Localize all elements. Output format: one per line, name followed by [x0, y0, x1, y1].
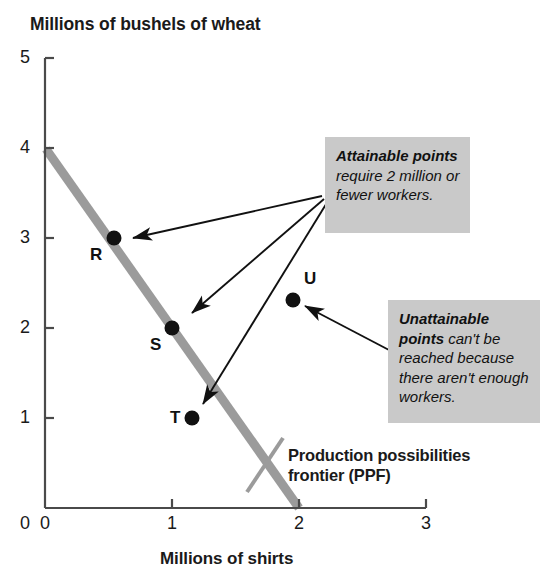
y-tick-label-3: 3 — [8, 227, 30, 248]
x-tick-label-1: 1 — [160, 513, 184, 534]
arrow-to-point-R — [133, 196, 322, 238]
data-point-label-T: T — [170, 408, 180, 428]
y-tick-label-1: 1 — [8, 407, 30, 428]
data-point-U[interactable] — [286, 293, 301, 308]
arrow-to-point-U — [305, 306, 389, 350]
ppf-chart-figure: Millions of bushels of wheat — [0, 0, 546, 582]
x-tick-label-0: 0 — [33, 513, 57, 534]
y-tick-label-5: 5 — [8, 47, 30, 68]
ppf-caption-line-1: Production possibilities — [288, 445, 518, 465]
ppf-caption: Production possibilities frontier (PPF) — [288, 445, 518, 485]
callout-unattainable-points: Unattainable points can't be reached bec… — [388, 300, 540, 423]
x-tick-label-2: 2 — [287, 513, 311, 534]
chart-plot-area — [0, 0, 546, 582]
data-point-R[interactable] — [107, 231, 122, 246]
callout-attainable-points: Attainable points require 2 million or f… — [325, 137, 470, 233]
callout-attainable-text: require 2 million or fewer workers. — [336, 167, 459, 204]
arrow-to-point-S — [192, 199, 324, 313]
data-point-label-R: R — [90, 245, 102, 265]
x-tick-label-3: 3 — [414, 513, 438, 534]
data-point-S[interactable] — [165, 321, 180, 336]
y-tick-label-4: 4 — [8, 137, 30, 158]
data-point-label-U: U — [304, 269, 316, 289]
y-tick-label-0: 0 — [8, 513, 30, 534]
ppf-caption-line-2: frontier (PPF) — [288, 465, 518, 485]
y-tick-label-2: 2 — [8, 317, 30, 338]
data-point-T[interactable] — [185, 411, 200, 426]
data-point-label-S: S — [150, 335, 161, 355]
callout-attainable-emphasis: Attainable points — [336, 147, 458, 164]
arrow-to-point-T — [203, 201, 328, 404]
x-axis-title: Millions of shirts — [160, 549, 293, 569]
